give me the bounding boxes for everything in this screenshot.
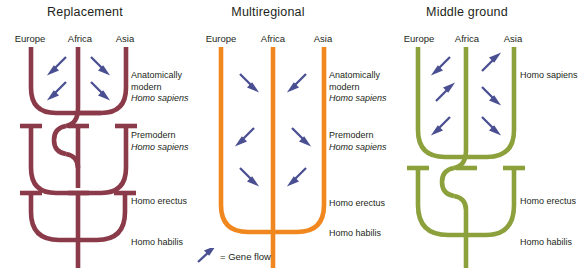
gene-flow-arrow: [482, 55, 498, 71]
panel-replacement: Replacement Europe Africa Asia: [0, 0, 196, 270]
gene-flow-arrow: [434, 57, 450, 73]
middleground-lineage-diagram: [392, 0, 588, 270]
branch-asia-upper: [78, 47, 126, 113]
tier-crossover-hook: [54, 126, 66, 154]
evolution-models-figure: Replacement Europe Africa Asia: [0, 0, 588, 270]
stage-label-homo-sapiens-middleground: Homo sapiens: [520, 70, 578, 82]
gene-flow-arrow: [292, 128, 308, 144]
legend-gene-flow-text: = Gene flow: [220, 251, 271, 262]
stage-label-premodern-replacement: Premodern Homo sapiens: [131, 130, 189, 153]
legend-gene-flow: = Gene flow: [196, 248, 271, 264]
stage-label-homo-erectus-middleground: Homo erectus: [520, 196, 576, 208]
gene-flow-arrow: [434, 117, 450, 133]
branch-europe-upper: [31, 47, 101, 113]
gene-flow-arrow: [238, 128, 254, 144]
tier-crossover-hook-lower-mg: [454, 196, 466, 210]
stage-label-homo-erectus-multiregional: Homo erectus: [329, 198, 385, 210]
gene-flow-arrow: [240, 168, 256, 184]
gene-flow-arrow: [482, 87, 498, 103]
stage-label-homo-habilis-multiregional: Homo habilis: [329, 228, 381, 240]
stage-label-homo-habilis-middleground: Homo habilis: [520, 237, 572, 249]
gene-flow-arrow: [482, 117, 498, 133]
gene-flow-arrow-icon: [196, 248, 216, 264]
gene-flow-arrow: [91, 82, 107, 98]
gene-flow-arrow: [50, 82, 66, 98]
tier-crossover-hook-mg: [442, 168, 454, 196]
stage-label-homo-habilis-replacement: Homo habilis: [131, 237, 183, 249]
stage-label-anatomically-modern-replacement: Anatomically modern Homo sapiens: [131, 70, 189, 105]
gene-flow-arrow: [436, 85, 452, 101]
gene-flow-arrow: [290, 74, 306, 90]
gene-flow-arrow: [91, 57, 107, 73]
stem-africa-upper-mg: [454, 47, 466, 168]
stage-label-homo-erectus-replacement: Homo erectus: [131, 196, 187, 208]
panel-middleground: Middle ground Europe Africa Asia: [392, 0, 588, 270]
gene-flow-arrow: [50, 57, 66, 73]
branch-asia-mid: [78, 126, 126, 193]
stage-label-premodern-multiregional: Premodern Homo sapiens: [329, 130, 387, 153]
stage-label-anatomically-modern-multiregional: Anatomically modern Homo sapiens: [329, 70, 387, 105]
panel-multiregional: Multiregional Europe Africa Asia Anatomi…: [196, 0, 392, 270]
gene-flow-arrow: [290, 168, 306, 184]
gene-flow-arrow: [240, 74, 256, 90]
